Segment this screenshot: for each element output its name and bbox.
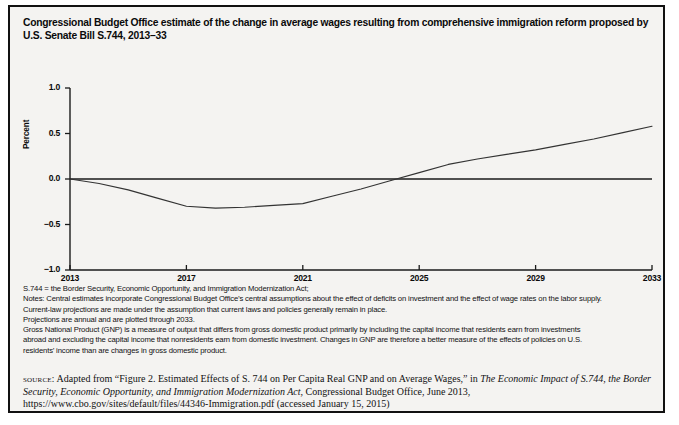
x-tick-label: 2021 xyxy=(283,273,323,283)
figure-source: source: Adapted from “Figure 2. Estimate… xyxy=(23,373,657,411)
y-tick-label: 1.0 xyxy=(30,82,60,92)
figure-title: Congressional Budget Office estimate of … xyxy=(23,16,653,42)
note-line: S.744 = the Border Security, Economic Op… xyxy=(23,284,657,294)
y-tick-label: 0.0 xyxy=(30,173,60,183)
x-tick-label: 2013 xyxy=(50,273,90,283)
source-label: source: xyxy=(23,374,55,384)
figure-panel: Congressional Budget Office estimate of … xyxy=(8,5,665,413)
x-tick-label: 2017 xyxy=(166,273,206,283)
note-line: Gross National Product (GNP) is a measur… xyxy=(23,325,657,335)
x-tick-label: 2025 xyxy=(399,273,439,283)
note-line: Projections are annual and are plotted t… xyxy=(23,315,657,325)
y-axis-label: Percent xyxy=(22,89,31,149)
note-line: Current-law projections are made under t… xyxy=(23,305,657,315)
figure-notes: S.744 = the Border Security, Economic Op… xyxy=(23,284,657,356)
x-tick-label: 2029 xyxy=(516,273,556,283)
data-series-lines xyxy=(70,126,652,208)
y-tick-label: 0.5 xyxy=(30,128,60,138)
note-line: Notes: Central estimates incorporate Con… xyxy=(23,294,657,304)
source-text-part1: Adapted from “Figure 2. Estimated Effect… xyxy=(55,373,481,384)
note-line: residents’ income than are changes in gr… xyxy=(23,346,657,356)
line-chart-svg xyxy=(23,65,653,273)
note-line: abroad and excluding the capital income … xyxy=(23,335,657,345)
x-tick-label: 2033 xyxy=(632,273,672,283)
chart-plot-area: Percent 1.00.50.0−0.5−1.0 20132017202120… xyxy=(23,65,653,273)
y-tick-label: −0.5 xyxy=(30,219,60,229)
